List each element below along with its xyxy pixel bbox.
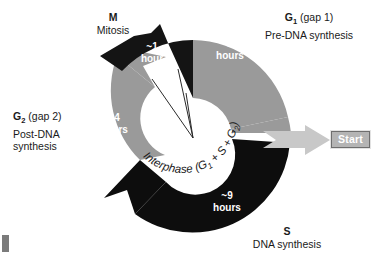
phase-label-s-description: DNA synthesis (237, 238, 337, 251)
phase-label-s: S DNA synthesis (237, 225, 337, 250)
duration-s-unit: hours (203, 202, 251, 214)
phase-label-m: M Mitosis (84, 11, 142, 36)
duration-g2: ~4 hours (92, 112, 136, 135)
cell-cycle-figure: Interphase (G1 + S + G2) M Mitosis G1 (g… (0, 0, 383, 259)
phase-label-g1-name: G1 (gap 1) (243, 11, 375, 29)
duration-s-value: ~9 (203, 190, 251, 202)
start-button[interactable]: Start (331, 131, 370, 148)
duration-m: ~1 hour (130, 41, 174, 64)
duration-m-value: ~1 (130, 41, 174, 53)
duration-g1-value: ~10 (206, 38, 254, 50)
phase-label-m-name: M (84, 11, 142, 24)
duration-s: ~9 hours (203, 190, 251, 213)
phase-label-s-name: S (237, 225, 337, 238)
pointer-line-3 (186, 93, 193, 138)
duration-g2-value: ~4 (92, 112, 136, 124)
phase-label-g1-description: Pre-DNA synthesis (243, 29, 375, 42)
duration-g1: ~10 hours (206, 38, 254, 61)
duration-m-unit: hour (130, 53, 174, 65)
phase-label-g2-description-line1: Post-DNA (13, 128, 95, 141)
duration-g2-unit: hours (92, 124, 136, 136)
duration-g1-unit: hours (206, 50, 254, 62)
phase-label-g2: G2 (gap 2) Post-DNA synthesis (13, 110, 95, 153)
phase-label-g2-description-line2: synthesis (13, 140, 95, 153)
corner-mark (2, 235, 9, 252)
phase-label-g2-name: G2 (gap 2) (13, 110, 95, 128)
phase-label-g1: G1 (gap 1) Pre-DNA synthesis (243, 11, 375, 41)
phase-label-m-description: Mitosis (84, 24, 142, 37)
